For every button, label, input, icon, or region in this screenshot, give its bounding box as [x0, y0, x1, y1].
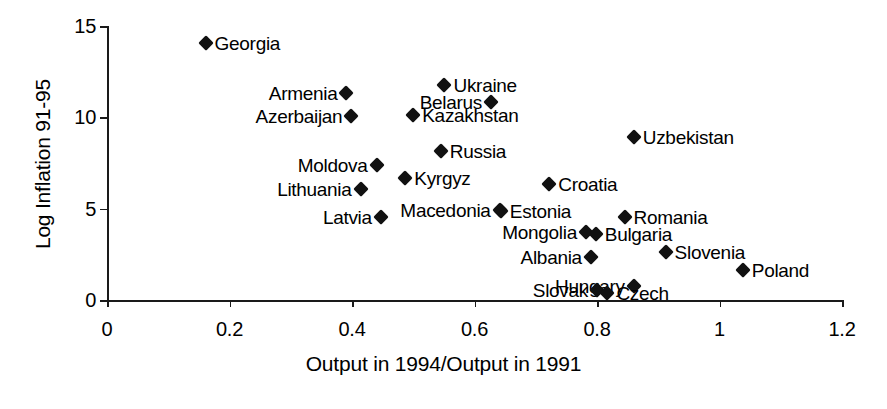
data-point-marker — [369, 157, 385, 173]
data-point-label: Poland — [752, 260, 809, 279]
x-axis-tick-label: 0.2 — [216, 318, 243, 341]
x-axis-tick — [107, 300, 109, 307]
data-point-label: Albania — [521, 248, 582, 267]
data-point-label: Bulgaria — [605, 225, 672, 244]
data-point-marker — [433, 143, 449, 159]
y-axis-tick-label: 15 — [74, 15, 96, 38]
y-axis-tick-label: 5 — [85, 197, 96, 220]
data-point-marker — [658, 244, 674, 260]
x-axis-title: Output in 1994/Output in 1991 — [0, 352, 887, 376]
data-point-marker — [541, 176, 557, 192]
data-point-label: Czech — [616, 283, 668, 302]
data-point-label: Uzbekistan — [643, 127, 734, 146]
x-axis-tick — [352, 300, 354, 307]
y-axis-title: Log Inflation 91-95 — [31, 39, 55, 289]
x-axis-tick — [842, 300, 844, 307]
data-point-label: Mongolia — [502, 222, 577, 241]
y-axis-tick-label: 0 — [85, 289, 96, 312]
y-axis-line — [107, 26, 109, 300]
data-point-marker — [583, 249, 599, 265]
data-point-label: Slovak — [533, 280, 588, 299]
data-point-label: Kazakhstan — [422, 105, 518, 124]
data-point-marker — [735, 262, 751, 278]
y-axis-tick — [100, 117, 107, 119]
data-point-label: Lithuania — [277, 179, 351, 198]
data-point-label: Armenia — [269, 83, 338, 102]
x-axis-tick — [720, 300, 722, 307]
data-point-marker — [398, 170, 414, 186]
scatter-chart-figure: 00.20.40.60.811.2051015GeorgiaUkraineArm… — [0, 0, 887, 409]
data-point-marker — [198, 36, 214, 52]
data-point-label: Slovenia — [675, 242, 745, 261]
x-axis-tick-label: 1.2 — [829, 318, 856, 341]
data-point-marker — [405, 107, 421, 123]
data-point-label: Estonia — [510, 202, 571, 221]
x-axis-tick-label: 0.8 — [584, 318, 611, 341]
data-point-label: Croatia — [558, 175, 617, 194]
data-point-label: Latvia — [323, 207, 372, 226]
data-point-marker — [626, 129, 642, 145]
data-point-marker — [344, 108, 360, 124]
x-axis-tick-label: 0 — [102, 318, 113, 341]
x-axis-tick-label: 1 — [714, 318, 725, 341]
x-axis-tick — [597, 300, 599, 307]
data-point-label: Azerbaijan — [256, 106, 343, 125]
x-axis-tick — [475, 300, 477, 307]
y-axis-tick — [100, 26, 107, 28]
data-point-label: Macedonia — [400, 200, 490, 219]
data-point-label: Moldova — [298, 155, 368, 174]
x-axis-tick-label: 0.4 — [339, 318, 366, 341]
data-point-marker — [353, 181, 369, 197]
data-point-label: Kyrgyz — [414, 168, 470, 187]
data-point-marker — [617, 209, 633, 225]
y-axis-tick — [100, 209, 107, 211]
data-point-marker — [373, 209, 389, 225]
x-axis-tick — [230, 300, 232, 307]
data-point-label: Russia — [450, 142, 506, 161]
data-point-marker — [339, 85, 355, 101]
x-axis-tick-label: 0.6 — [461, 318, 488, 341]
y-axis-tick-label: 10 — [74, 106, 96, 129]
y-axis-tick — [100, 300, 107, 302]
data-point-label: Georgia — [215, 34, 281, 53]
